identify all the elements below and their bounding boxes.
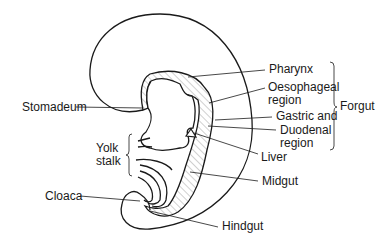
label-pharynx: Pharynx xyxy=(269,63,313,76)
label-midgut: Midgut xyxy=(262,175,298,188)
leader-cloaca xyxy=(80,196,140,201)
label-yolk-2: stalk xyxy=(96,155,121,168)
label-gastric: Gastric and xyxy=(276,110,337,123)
label-duodenal-2: region xyxy=(280,137,313,150)
leader-hindgut xyxy=(150,211,218,227)
embryo-gut-diagram: Pharynx Oesophageal region Gastric and D… xyxy=(0,0,387,246)
leader-gastric xyxy=(215,117,272,120)
label-hindgut: Hindgut xyxy=(222,220,263,233)
leader-pharynx xyxy=(188,70,265,77)
label-forgut: Forgut xyxy=(340,100,375,113)
label-stomadeum: Stomadeum xyxy=(22,101,87,114)
label-liver: Liver xyxy=(261,151,287,164)
leader-oesophageal xyxy=(209,88,265,103)
leader-duodenal xyxy=(208,126,276,130)
yolk-stalk-bracket xyxy=(126,134,132,176)
label-cloaca: Cloaca xyxy=(45,190,82,203)
label-oesophageal-2: region xyxy=(268,94,301,107)
yolk-stalk-line-2 xyxy=(138,146,152,147)
